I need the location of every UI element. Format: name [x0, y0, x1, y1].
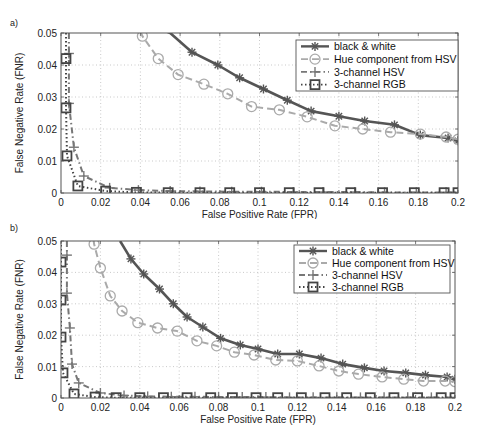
asterisk-marker-icon	[421, 371, 430, 380]
asterisk-marker-icon	[169, 299, 178, 308]
x-tick-label: 0.1	[251, 402, 265, 413]
legend-label: Hue component from HSV	[332, 257, 455, 269]
y-tick-label: 0	[51, 188, 57, 199]
x-tick-label: 0.06	[169, 402, 189, 413]
legend-label: 3-channel RGB	[332, 281, 404, 293]
chart-panel-a: a)00.020.040.060.080.10.120.140.160.180.…	[0, 0, 479, 219]
y-tick-label: 0.03	[38, 299, 58, 310]
panel-label: a)	[10, 18, 18, 28]
asterisk-marker-icon	[273, 350, 282, 359]
x-tick-label: 0.18	[406, 402, 426, 413]
x-tick-label: 0.14	[327, 402, 347, 413]
x-tick-label: 0.02	[91, 197, 111, 208]
y-tick-label: 0.01	[38, 362, 58, 373]
asterisk-marker-icon	[235, 73, 244, 82]
square-marker-icon	[70, 389, 79, 398]
panel-label: b)	[10, 223, 18, 233]
x-tick-label: 0	[58, 197, 64, 208]
x-tick-label: 0.04	[130, 402, 150, 413]
legend-label: 3-channel HSV	[334, 66, 405, 78]
x-tick-label: 0.06	[170, 197, 190, 208]
asterisk-legend-icon	[311, 42, 320, 51]
asterisk-marker-icon	[198, 323, 207, 332]
asterisk-marker-icon	[183, 312, 192, 321]
x-tick-label: 0.08	[210, 197, 230, 208]
y-tick-label: 0.04	[38, 267, 58, 278]
plus-marker-icon	[62, 250, 72, 260]
asterisk-legend-icon	[309, 247, 318, 256]
plus-marker-icon	[355, 392, 365, 402]
y-tick-label: 0.02	[38, 124, 58, 135]
legend: black & whiteHue component from HSV3-cha…	[294, 245, 455, 293]
y-tick-label: 0.03	[38, 92, 58, 103]
chart-b-svg: b)00.020.040.060.080.10.120.140.160.180.…	[0, 219, 479, 438]
x-tick-label: 0.2	[448, 402, 462, 413]
square-marker-icon	[73, 181, 82, 190]
asterisk-marker-icon	[213, 61, 222, 70]
y-tick-label: 0	[51, 393, 57, 404]
asterisk-marker-icon	[188, 48, 197, 57]
legend-label: 3-channel RGB	[334, 78, 406, 90]
plus-marker-icon	[133, 185, 143, 195]
asterisk-marker-icon	[334, 112, 343, 121]
legend-item: black & white	[301, 40, 396, 52]
legend-label: 3-channel HSV	[332, 269, 403, 281]
circle-marker-icon	[153, 54, 163, 64]
asterisk-marker-icon	[295, 350, 304, 359]
plus-marker-icon	[67, 359, 77, 369]
legend: black & whiteHue component from HSV3-cha…	[296, 40, 458, 91]
circle-marker-icon	[199, 79, 209, 89]
x-tick-label: 0.1	[253, 197, 267, 208]
asterisk-marker-icon	[390, 120, 399, 129]
plus-marker-icon	[65, 323, 75, 333]
x-tick-label: 0.04	[131, 197, 151, 208]
x-tick-label: 0.18	[409, 197, 429, 208]
x-axis-label: False Positive Rate (FPR)	[202, 209, 318, 219]
x-tick-label: 0.12	[288, 402, 308, 413]
plus-marker-icon	[308, 392, 318, 402]
asterisk-marker-icon	[380, 366, 389, 375]
asterisk-marker-icon	[401, 368, 410, 377]
plus-marker-icon	[285, 392, 295, 402]
x-tick-label: 0.14	[329, 197, 349, 208]
plus-marker-icon	[62, 288, 72, 298]
y-tick-label: 0.05	[38, 28, 58, 39]
y-tick-label: 0.02	[38, 330, 58, 341]
x-axis-label: False Positive Rate (FPR)	[200, 414, 316, 425]
x-tick-label: 0.02	[91, 402, 111, 413]
y-tick-label: 0.05	[38, 236, 58, 247]
asterisk-marker-icon	[155, 285, 164, 294]
legend-label: black & white	[332, 245, 394, 257]
plus-marker-icon	[74, 378, 84, 388]
asterisk-marker-icon	[139, 269, 148, 278]
legend-item: black & white	[299, 245, 394, 257]
asterisk-marker-icon	[283, 96, 292, 105]
chart-panel-b: b)00.020.040.060.080.10.120.140.160.180.…	[0, 219, 479, 438]
asterisk-marker-icon	[360, 363, 369, 372]
legend-label: Hue component from HSV	[334, 53, 457, 65]
asterisk-marker-icon	[259, 85, 268, 94]
x-tick-label: 0.16	[366, 402, 386, 413]
x-tick-label: 0.08	[209, 402, 229, 413]
asterisk-marker-icon	[126, 254, 135, 263]
x-tick-label: 0	[58, 402, 64, 413]
legend-label: black & white	[334, 40, 396, 52]
x-tick-label: 0.2	[451, 197, 465, 208]
plus-marker-icon	[79, 171, 89, 181]
chart-a-svg: a)00.020.040.060.080.10.120.140.160.180.…	[0, 0, 479, 219]
y-tick-label: 0.01	[38, 156, 58, 167]
y-tick-label: 0.04	[38, 60, 58, 71]
square-marker-icon	[62, 151, 71, 160]
x-tick-label: 0.12	[289, 197, 309, 208]
y-axis-label: False Negative Rate (FNR)	[14, 259, 25, 380]
y-axis-label: False Negative Rate (FNR)	[14, 53, 25, 174]
x-tick-label: 0.16	[369, 197, 389, 208]
